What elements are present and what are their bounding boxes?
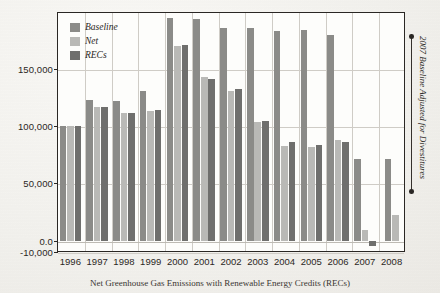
bar-group: [137, 12, 164, 252]
y-axis-tick-label: 50,000: [1, 178, 53, 189]
legend-label-recs: RECs: [85, 51, 107, 61]
bar-baseline-1996: [60, 126, 67, 240]
bar-net-2008: [392, 215, 399, 240]
bar-net-1998: [121, 113, 128, 241]
legend-label-net: Net: [85, 37, 98, 47]
bar-group: [218, 12, 245, 252]
bar-baseline-2002: [220, 28, 227, 241]
y-axis-tick: [54, 126, 58, 127]
y-axis-tick-label: 100,000: [1, 121, 53, 132]
legend-swatch-net: [70, 37, 80, 46]
y-axis-tick-label: -10,000: [1, 247, 53, 258]
x-axis-tick-label: 2008: [381, 256, 402, 267]
x-axis-tick-label: 2001: [194, 256, 215, 267]
bar-net-1996: [67, 126, 74, 240]
x-axis-tick-label: 2006: [327, 256, 348, 267]
bar-net-1997: [94, 107, 101, 241]
bar-recs-1999: [155, 110, 162, 240]
x-axis-tick-label: 1999: [140, 256, 161, 267]
bar-baseline-2000: [167, 18, 174, 241]
bar-recs-2001: [208, 79, 215, 240]
bar-group: [191, 12, 218, 252]
bar-baseline-2001: [193, 19, 200, 241]
legend-swatch-baseline: [70, 23, 80, 32]
chart-caption: Net Greenhouse Gas Emissions with Renewa…: [0, 278, 440, 288]
x-axis-tick-label: 1996: [60, 256, 81, 267]
legend-item-baseline: Baseline: [70, 22, 118, 34]
bar-net-2003: [254, 122, 261, 241]
x-axis-tick-label: 1998: [113, 256, 134, 267]
legend-item-net: Net: [70, 36, 118, 48]
bar-net-2007: [362, 230, 369, 240]
bar-baseline-2003: [247, 28, 254, 241]
bar-recs-2000: [182, 45, 189, 240]
bar-group: [164, 12, 191, 252]
y-axis-tick: [54, 69, 58, 70]
bar-baseline-1999: [140, 91, 147, 241]
chart-figure: -10,0000.050,000100,000150,000 Baseline …: [0, 0, 440, 293]
legend-item-recs: RECs: [70, 50, 118, 62]
y-axis-tick: [54, 241, 58, 242]
y-axis-tick-label: 150,000: [1, 64, 53, 75]
bar-net-2000: [174, 46, 181, 240]
bar-net-2002: [228, 91, 235, 241]
chart-legend: Baseline Net RECs: [70, 22, 118, 64]
x-axis-tick-label: 2003: [247, 256, 268, 267]
y-axis: -10,0000.050,000100,000150,000: [0, 12, 53, 252]
bar-recs-2002: [235, 89, 242, 241]
x-axis-tick-label: 2000: [167, 256, 188, 267]
x-axis-tick-label: 2002: [220, 256, 241, 267]
y-axis-tick: [54, 183, 58, 184]
bar-recs-1996: [75, 126, 82, 240]
bar-baseline-1998: [113, 101, 120, 240]
x-axis-tick-label: 2005: [301, 256, 322, 267]
bar-group: [244, 12, 271, 252]
x-axis-tick-label: 1997: [87, 256, 108, 267]
legend-swatch-recs: [70, 51, 80, 60]
bar-net-1999: [147, 111, 154, 240]
legend-label-baseline: Baseline: [85, 23, 118, 33]
bar-baseline-1997: [86, 100, 93, 241]
bar-recs-1998: [128, 113, 135, 241]
bar-recs-2003: [262, 121, 269, 241]
x-axis-tick-label: 2007: [354, 256, 375, 267]
y-axis-tick-label: 0.0: [1, 235, 53, 246]
bar-recs-1997: [101, 107, 108, 241]
divestiture-annotation: 2007 Baseline Adjusted for Divestitures: [273, 36, 428, 191]
x-axis-tick-label: 2004: [274, 256, 295, 267]
gridline-horizontal: [58, 253, 404, 254]
bar-net-2001: [201, 77, 208, 240]
bar-recs-2007: [369, 241, 376, 247]
y-axis-tick: [54, 252, 58, 253]
